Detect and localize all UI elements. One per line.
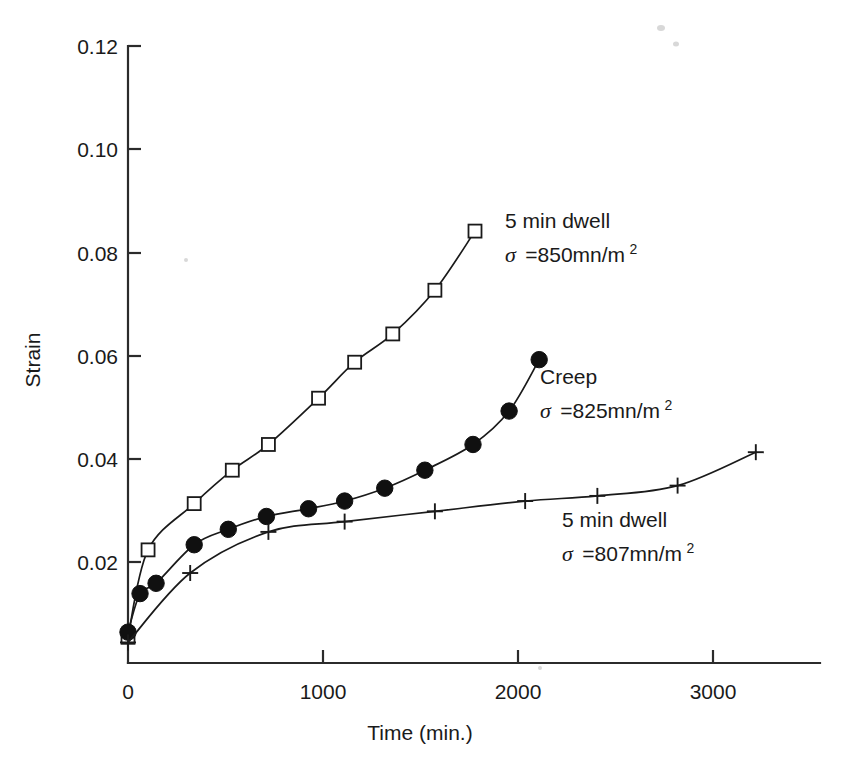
sigma-value: =807mn/m (582, 542, 682, 565)
data-point-circle (377, 480, 393, 496)
data-point-square (262, 438, 275, 451)
sigma-symbol: σ (505, 242, 517, 267)
data-point-square (142, 543, 155, 556)
data-point-circle (220, 521, 236, 537)
annotation-line-2: σ =825mn/m 2 (540, 397, 673, 423)
sigma-exponent: 2 (630, 241, 638, 257)
y-tick-label: 0.06 (77, 345, 118, 368)
sigma-exponent: 2 (665, 397, 673, 413)
annotation-line-1: 5 min dwell (505, 209, 610, 232)
data-point-circle (465, 436, 481, 452)
annotation-line-2: σ =850mn/m 2 (505, 241, 638, 267)
data-point-square (188, 497, 201, 510)
y-tick-label: 0.12 (77, 35, 118, 58)
data-point-circle (501, 403, 517, 419)
sigma-value: =825mn/m (560, 399, 660, 422)
y-axis-title: Strain (21, 333, 44, 388)
data-point-square (386, 327, 399, 340)
y-tick-label: 0.04 (77, 448, 118, 471)
data-point-circle (148, 575, 164, 591)
data-point-circle (186, 537, 202, 553)
annotation-line-2: σ =807mn/m 2 (562, 540, 695, 566)
y-tick-label: 0.02 (77, 551, 118, 574)
data-point-circle (417, 462, 433, 478)
annotation-line-1: 5 min dwell (562, 508, 667, 531)
sigma-value: =850mn/m (525, 243, 625, 266)
sigma-symbol: σ (562, 541, 574, 566)
sigma-exponent: 2 (687, 540, 695, 556)
x-tick-label: 0 (122, 680, 134, 703)
data-point-circle (336, 493, 352, 509)
x-tick-label: 2000 (495, 680, 542, 703)
chart-root: 0.12 0.10 0.08 0.06 0.04 0.02 0 1000 200… (0, 0, 847, 764)
data-point-circle (300, 501, 316, 517)
x-tick-label: 1000 (300, 680, 347, 703)
data-point-square (348, 356, 361, 369)
data-point-square (428, 284, 441, 297)
data-point-circle (258, 508, 274, 524)
annotation-line-1: Creep (540, 365, 597, 388)
data-point-square (226, 464, 239, 477)
data-point-square (312, 392, 325, 405)
x-axis-title: Time (min.) (367, 721, 472, 744)
strain-vs-time-plot: 0.12 0.10 0.08 0.06 0.04 0.02 0 1000 200… (0, 0, 847, 764)
data-point-circle (132, 585, 148, 601)
data-point-square (469, 225, 482, 238)
x-tick-label: 3000 (690, 680, 737, 703)
sigma-symbol: σ (540, 398, 552, 423)
y-tick-label: 0.08 (77, 242, 118, 265)
y-tick-label: 0.10 (77, 138, 118, 161)
